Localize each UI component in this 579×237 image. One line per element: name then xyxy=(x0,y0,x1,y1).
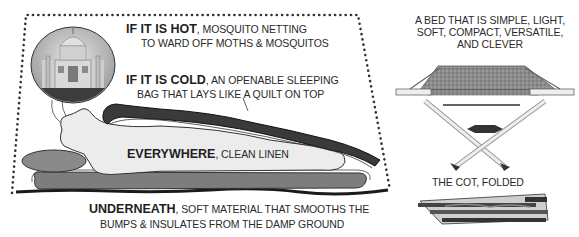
mat-icon xyxy=(32,170,371,189)
bed-caption: A BED THAT IS SIMPLE, LIGHT, SOFT, COMPA… xyxy=(405,14,575,50)
hot-line1: MOSQUITO NETTING xyxy=(202,23,306,35)
bed-caption-line2: SOFT, COMPACT, VERSATILE, xyxy=(405,26,575,38)
pillow-icon xyxy=(22,150,86,172)
bed-caption-line3: AND CLEVER xyxy=(405,38,575,50)
cold-line2: BAG THAT LAYS LIKE A QUILT ON TOP xyxy=(137,88,324,100)
folded-cot-icon xyxy=(418,194,548,224)
cot-diagram: IF IT IS HOT, MOSQUITO NETTING TO WARD O… xyxy=(0,0,579,237)
everywhere-line1: CLEAN LINEN xyxy=(221,148,289,160)
hot-label: IF IT IS HOT, MOSQUITO NETTING xyxy=(126,23,307,35)
ground-line xyxy=(16,189,388,194)
underneath-label: UNDERNEATH, SOFT MATERIAL THAT SMOOTHS T… xyxy=(89,203,369,215)
underneath-lead: UNDERNEATH xyxy=(89,202,176,216)
cold-lead: IF IT IS COLD xyxy=(126,73,206,87)
underneath-line2: BUMPS & INSULATES FROM THE DAMP GROUND xyxy=(100,218,344,230)
open-cot-icon xyxy=(396,66,574,171)
underneath-line1: SOFT MATERIAL THAT SMOOTHS THE xyxy=(181,203,369,215)
folded-caption: THE COT, FOLDED xyxy=(432,176,524,188)
hot-lead: IF IT IS HOT xyxy=(126,22,197,36)
cold-line1: AN OPENABLE SLEEPING xyxy=(211,74,339,86)
bed-caption-line1: A BED THAT IS SIMPLE, LIGHT, xyxy=(405,14,575,26)
everywhere-label: EVERYWHERE, CLEAN LINEN xyxy=(127,148,289,160)
cold-label: IF IT IS COLD, AN OPENABLE SLEEPING xyxy=(126,74,338,86)
hot-line2: TO WARD OFF MOTHS & MOSQUITOS xyxy=(141,37,329,49)
taj-mahal-bubble-icon xyxy=(31,26,115,103)
everywhere-lead: EVERYWHERE xyxy=(127,147,215,161)
